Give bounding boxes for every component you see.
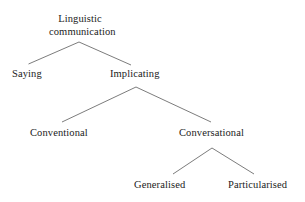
edge-root-implicating — [79, 42, 131, 65]
edge-root-saying — [29, 42, 80, 64]
node-conventional: Conventional — [30, 127, 88, 139]
edge-implicating-conventional — [62, 87, 136, 122]
node-label-line-1: Linguistic — [49, 13, 111, 26]
edge-conversational-generalised — [173, 148, 212, 174]
node-implicating: Implicating — [110, 68, 160, 80]
node-linguistic-communication: Linguistic communication — [49, 13, 111, 38]
node-saying: Saying — [12, 68, 42, 80]
node-label-line-2: communication — [49, 26, 111, 39]
node-particularised: Particularised — [228, 179, 287, 191]
node-conversational: Conversational — [179, 127, 244, 139]
node-generalised: Generalised — [134, 179, 185, 191]
edge-implicating-conversational — [136, 87, 211, 122]
edge-conversational-particularised — [212, 148, 254, 174]
tree-diagram: Linguistic communication Saying Implicat… — [0, 0, 305, 202]
connector-lines — [0, 0, 305, 202]
